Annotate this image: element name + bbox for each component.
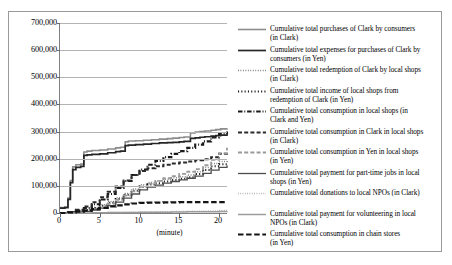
y-axis-tick-label: 700,000 [31,19,57,27]
legend-item[interactable]: Cumulative total redemption of Clark by … [237,65,443,83]
x-axis-title: (minute) [59,228,226,237]
legend-line-swatch [237,210,267,219]
y-tick-mark [57,186,60,187]
legend-line-swatch [237,230,267,239]
legend-label: Cumulative total payment for volunteerin… [270,209,443,227]
legend-item[interactable]: Cumulative total payment for volunteerin… [237,209,443,227]
chart-container: 0100,000200,000300,000400,000500,000600,… [8,11,442,252]
legend-item[interactable]: Cumulative total consumption in local sh… [237,106,443,124]
y-axis-tick-label: 300,000 [31,127,57,135]
y-tick-mark [57,132,60,133]
gridline [60,50,227,51]
legend-label: Cumulative total consumption in chain st… [270,229,443,247]
x-axis-tick-label: 20 [214,217,222,225]
y-tick-mark [57,50,60,51]
y-axis-tick-label: 100,000 [31,182,57,190]
legend-line-swatch [237,107,267,116]
y-axis-tick-label: 600,000 [31,46,57,54]
legend-item[interactable]: Cumulative total consumption in Clark in… [237,127,443,145]
legend-item[interactable]: Cumulative total consumption in Yen in l… [237,147,443,165]
legend-line-swatch [237,148,267,157]
legend-line-swatch [237,66,267,75]
legend-label: Cumulative total consumption in Clark in… [270,127,443,145]
legend-item[interactable]: Cumulative total consumption in chain st… [237,229,443,247]
legend-label: Cumulative total consumption in Yen in l… [270,147,443,165]
series-line [60,128,227,207]
gridline [60,23,227,24]
legend-label: Cumulative total expenses for purchases … [270,45,443,63]
x-axis-tick-label: 15 [174,217,182,225]
legend-label: Cumulative total payment for part-time j… [270,168,443,186]
legend-line-swatch [237,189,267,198]
y-axis-tick-labels: 0100,000200,000300,000400,000500,000600,… [11,12,57,224]
legend-label: Cumulative total purchases of Clark by c… [270,24,443,42]
y-tick-mark [57,104,60,105]
legend-line-swatch [237,169,267,178]
legend-item[interactable]: Cumulative total purchases of Clark by c… [237,24,443,42]
gridline [60,104,227,105]
chart-legend: Cumulative total purchases of Clark by c… [237,14,443,251]
plot-region: 0100,000200,000300,000400,000500,000600,… [9,12,237,253]
y-axis-tick-label: 500,000 [31,73,57,81]
legend-item[interactable]: Cumulative total donations to local NPOs… [237,188,443,198]
gridline [60,132,227,133]
legend-line-swatch [237,87,267,96]
series-lines [60,23,227,213]
x-axis-tick-label: 0 [57,217,61,225]
legend-line-swatch [237,46,267,55]
legend-item[interactable]: Cumulative total expenses for purchases … [237,45,443,63]
legend-item[interactable]: Cumulative total payment for part-time j… [237,168,443,186]
legend-line-swatch [237,25,267,34]
legend-item[interactable]: Cumulative total income of local shops f… [237,86,443,104]
y-tick-mark [57,159,60,160]
gridline [60,159,227,160]
x-axis-title-text: (minute) [156,228,182,237]
legend-label: Cumulative total donations to local NPOs… [270,188,443,197]
x-axis-tick-label: 10 [134,217,142,225]
y-tick-mark [57,77,60,78]
legend-label: Cumulative total redemption of Clark by … [270,65,443,83]
legend-line-swatch [237,128,267,137]
plot-area [59,23,227,214]
legend-label: Cumulative total income of local shops f… [270,86,443,104]
y-axis-tick-label: 200,000 [31,155,57,163]
legend-label: Cumulative total consumption in local sh… [270,106,443,124]
gridline [60,186,227,187]
x-axis-tick-label: 5 [97,217,101,225]
y-tick-mark [57,23,60,24]
y-axis-tick-label: 400,000 [31,100,57,108]
gridline [60,77,227,78]
